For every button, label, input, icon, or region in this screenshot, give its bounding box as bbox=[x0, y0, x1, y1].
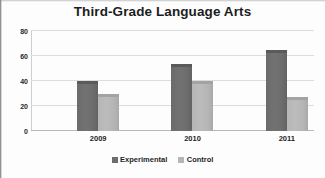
y-tick-label-60: 60 bbox=[2, 53, 28, 60]
bar-group-2009 bbox=[31, 31, 125, 131]
bar-top-cap bbox=[77, 81, 98, 84]
bar-control-2010[interactable] bbox=[192, 81, 213, 131]
x-tick-label-2010: 2010 bbox=[162, 134, 224, 143]
bar-top-cap bbox=[266, 50, 287, 53]
bar-control-2011[interactable] bbox=[287, 97, 308, 131]
chart-title: Third-Grade Language Arts bbox=[0, 4, 325, 19]
bar-group-2011 bbox=[220, 31, 314, 131]
bar-group-2010 bbox=[125, 31, 219, 131]
bar-experimental-2010[interactable] bbox=[171, 64, 192, 132]
x-tick-label-2009: 2009 bbox=[67, 134, 129, 143]
bar-top-cap bbox=[98, 94, 119, 97]
legend-swatch-icon bbox=[178, 157, 184, 163]
x-axis-tick-labels: 200920102011 bbox=[31, 134, 314, 148]
y-tick-label-0: 0 bbox=[2, 128, 28, 135]
bar-top-cap bbox=[192, 81, 213, 84]
x-tick-label-2011: 2011 bbox=[256, 134, 318, 143]
legend-label: Control bbox=[187, 155, 214, 164]
y-tick-label-80: 80 bbox=[2, 28, 28, 35]
bar-experimental-2011[interactable] bbox=[266, 50, 287, 131]
y-tick-label-20: 20 bbox=[2, 103, 28, 110]
legend-item-experimental[interactable]: Experimental bbox=[112, 155, 168, 164]
legend-label: Experimental bbox=[120, 155, 167, 164]
legend-item-control[interactable]: Control bbox=[178, 155, 213, 164]
plot-area bbox=[31, 31, 314, 131]
chart-legend: ExperimentalControl bbox=[0, 155, 325, 164]
bar-top-cap bbox=[171, 64, 192, 67]
bar-experimental-2009[interactable] bbox=[77, 81, 98, 131]
scan-artifact-top-edge bbox=[0, 0, 325, 2]
chart-figure: Third-Grade Language Arts 020406080 2009… bbox=[0, 0, 325, 178]
y-tick-label-40: 40 bbox=[2, 78, 28, 85]
y-axis-tick-labels: 020406080 bbox=[0, 31, 28, 131]
bar-top-cap bbox=[287, 97, 308, 100]
legend-swatch-icon bbox=[112, 157, 118, 163]
bar-control-2009[interactable] bbox=[98, 94, 119, 132]
